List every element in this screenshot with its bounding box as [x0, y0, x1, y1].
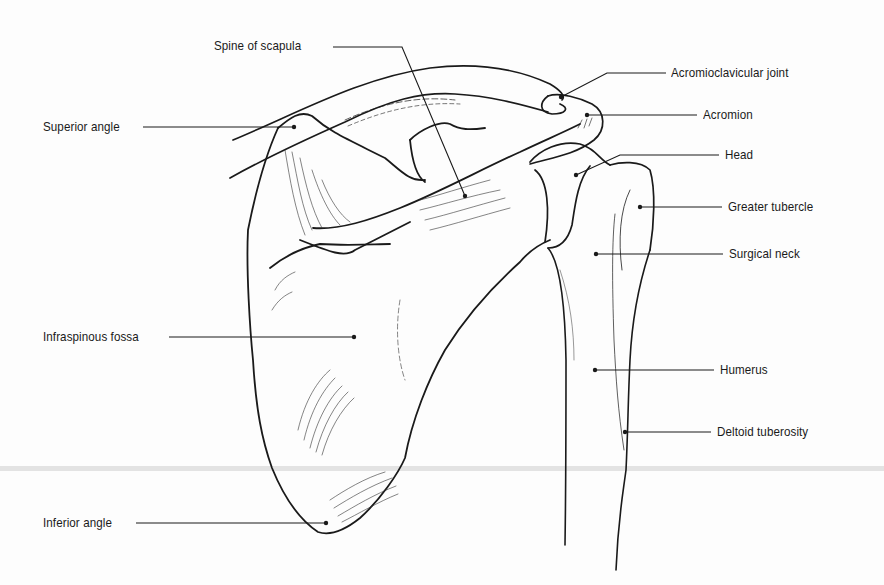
label-head: Head [725, 147, 753, 163]
label-infraspinous-fossa: Infraspinous fossa [43, 329, 139, 345]
leader-dots [292, 95, 642, 525]
pointer-dot-infraspinous-fossa [352, 335, 356, 339]
label-greater-tubercle: Greater tubercle [728, 199, 813, 215]
label-acromion: Acromion [703, 107, 753, 123]
pointer-dot-head [574, 173, 578, 177]
leader-line-acromioclavicular-joint [561, 73, 666, 97]
label-superior-angle: Superior angle [43, 119, 120, 135]
humerus-shaft-drawing [548, 190, 650, 570]
label-inferior-angle: Inferior angle [43, 515, 112, 531]
label-surgical-neck: Surgical neck [729, 246, 800, 262]
bone-illustration [0, 0, 884, 585]
pointer-dot-surgical-neck [594, 252, 598, 256]
label-humerus: Humerus [720, 362, 768, 378]
pointer-dot-acromion [585, 113, 589, 117]
leader-line-spine-of-scapula [333, 47, 465, 196]
pointer-dot-greater-tubercle [638, 205, 642, 209]
leader-line-head [576, 155, 719, 175]
acromion-drawing [530, 95, 603, 164]
pointer-dot-superior-angle [292, 125, 296, 129]
pointer-dot-inferior-angle [324, 521, 328, 525]
scapula-drawing [247, 114, 580, 533]
label-acromioclavicular-joint: Acromioclavicular joint [671, 65, 788, 81]
label-deltoid-tuberosity: Deltoid tuberosity [717, 424, 808, 440]
pointer-dot-acromioclavicular-joint [559, 95, 563, 99]
pointer-dot-humerus [593, 368, 597, 372]
pointer-dot-deltoid-tuberosity [623, 430, 627, 434]
shading-hatching [272, 150, 574, 522]
pointer-dot-spine-of-scapula [463, 194, 467, 198]
shoulder-anatomy-diagram: Spine of scapula Superior angle Acromioc… [0, 0, 884, 585]
label-spine-of-scapula: Spine of scapula [214, 38, 301, 54]
leader-lines [136, 47, 723, 523]
clavicle-drawing [230, 66, 563, 178]
